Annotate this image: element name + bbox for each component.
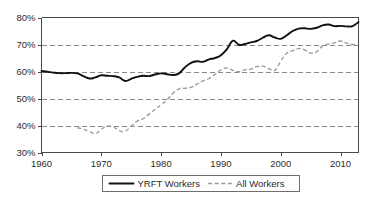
chart-container: 80%70%60%50%40%30% 196019701980199020002… (0, 0, 375, 206)
legend-label-yrft-workers: YRFT Workers (138, 178, 201, 189)
y-axis-label: 60% (16, 66, 36, 77)
x-axis-labels-group: 196019701980199020002010 (31, 158, 351, 169)
x-axis-label: 1960 (31, 158, 52, 169)
y-axis-label: 80% (16, 12, 36, 23)
gridlines-group (42, 46, 359, 127)
series-line-all-workers (77, 41, 358, 134)
x-axis-label: 1990 (210, 158, 231, 169)
y-axis-label: 50% (16, 93, 36, 104)
series-line-yrft-workers (42, 22, 359, 81)
x-axis-label: 2000 (270, 158, 291, 169)
x-axis-label: 2010 (330, 158, 351, 169)
axes-group (42, 18, 359, 153)
x-axis-label: 1980 (151, 158, 172, 169)
x-axis-label: 1970 (91, 158, 112, 169)
chart-legend: YRFT WorkersAll Workers (103, 176, 300, 192)
legend-label-all-workers: All Workers (236, 178, 285, 189)
y-axis-labels-group: 80%70%60%50%40%30% (16, 12, 36, 158)
line-chart: 80%70%60%50%40%30% 196019701980199020002… (0, 0, 375, 206)
y-axis-label: 40% (16, 120, 36, 131)
data-series-group (42, 22, 359, 134)
y-axis-label: 70% (16, 39, 36, 50)
y-axis-label: 30% (16, 147, 36, 158)
